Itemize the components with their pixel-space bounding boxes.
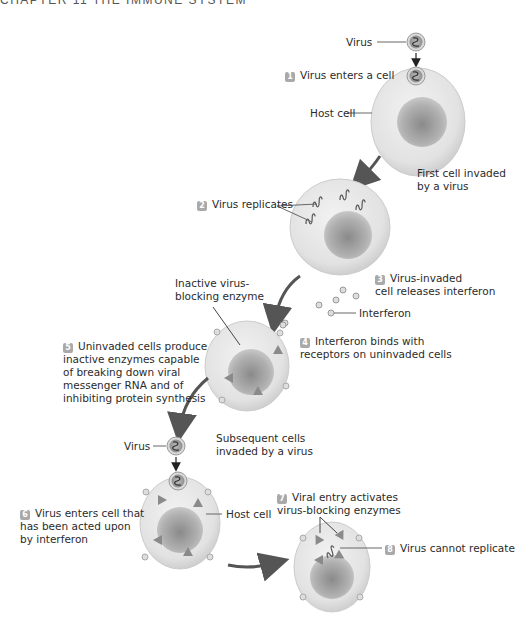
step-6-label: 6Virus enters cell that has been acted u… — [20, 507, 144, 546]
step-8-label: 8Virus cannot replicate — [385, 542, 515, 555]
first-cell-caption: First cell invaded by a virus — [417, 167, 506, 193]
step-7-label: 7Viral entry activates virus-blocking en… — [277, 491, 401, 517]
step-badge-1: 1 — [285, 72, 295, 82]
protected-cell — [294, 522, 370, 612]
host-cell-interferon — [140, 477, 220, 569]
host-cell-label-top: Host cell — [310, 107, 355, 120]
step-3-label: 3Virus-invaded cell releases interferon — [375, 272, 495, 298]
inactive-enzyme-label: Inactive virus- blocking enzyme — [175, 277, 264, 303]
virus-label-mid: Virus — [124, 440, 150, 453]
virus-icon-mid — [167, 437, 185, 455]
host-cell-2 — [290, 179, 390, 275]
interferon-label: Interferon — [359, 307, 411, 320]
virus-label-top: Virus — [346, 36, 372, 49]
step-5-label: 5Uninvaded cells produce inactive enzyme… — [63, 340, 207, 405]
uninvaded-cell — [205, 321, 289, 411]
virus-icon-top — [407, 33, 425, 51]
step-2-label: 2Virus replicates — [197, 198, 293, 211]
step-badge-5: 5 — [63, 343, 73, 353]
step-4-label: 4Interferon binds with receptors on unin… — [300, 335, 452, 361]
step-badge-8: 8 — [385, 545, 395, 555]
step-badge-7: 7 — [277, 494, 287, 504]
step-badge-4: 4 — [300, 338, 310, 348]
host-cell-label-bottom: Host cell — [226, 508, 271, 521]
step-badge-3: 3 — [375, 275, 385, 285]
subsequent-cells-caption: Subsequent cells invaded by a virus — [216, 432, 313, 458]
step-badge-2: 2 — [197, 201, 207, 211]
step-badge-6: 6 — [20, 510, 30, 520]
step-1-label: 1Virus enters a cell — [285, 69, 394, 82]
